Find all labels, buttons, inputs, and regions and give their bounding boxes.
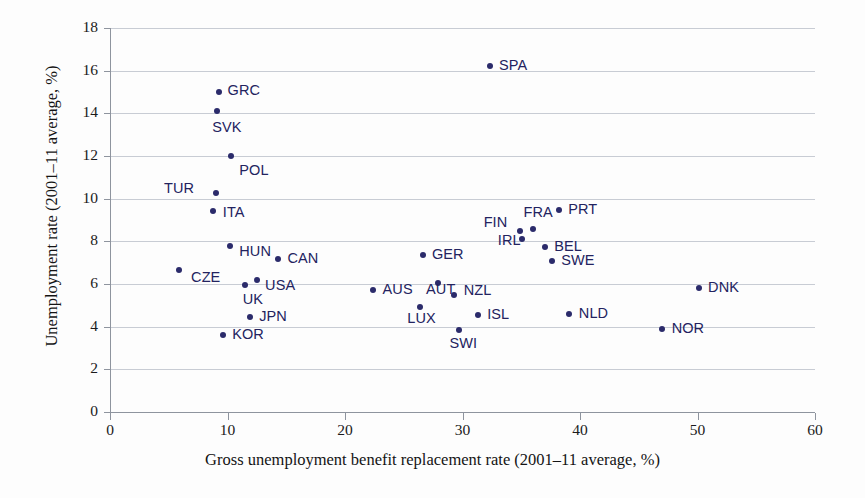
data-point-kor[interactable] <box>220 332 226 338</box>
point-label-ita: ITA <box>223 204 245 220</box>
y-tick-14 <box>104 113 111 114</box>
data-point-nld[interactable] <box>566 311 572 317</box>
data-point-nor[interactable] <box>659 326 665 332</box>
y-axis-line <box>110 28 111 413</box>
point-label-swe: SWE <box>561 252 594 268</box>
point-label-prt: PRT <box>568 201 597 217</box>
point-label-aus: AUS <box>383 281 413 297</box>
data-point-aus[interactable] <box>370 287 376 293</box>
data-point-can[interactable] <box>275 256 281 262</box>
y-tick-2 <box>104 369 111 370</box>
x-tick-50 <box>698 413 699 420</box>
x-tick-label-30: 30 <box>438 421 488 439</box>
gridline-y-2 <box>110 369 815 370</box>
y-tick-label-18: 18 <box>58 18 98 36</box>
point-label-grc: GRC <box>228 82 261 98</box>
point-label-spa: SPA <box>499 57 527 73</box>
gridline-y-18 <box>110 28 815 29</box>
point-label-nld: NLD <box>579 305 608 321</box>
point-label-kor: KOR <box>232 326 264 342</box>
y-tick-18 <box>104 28 111 29</box>
y-tick-label-4: 4 <box>58 317 98 335</box>
y-tick-8 <box>104 241 111 242</box>
data-point-isl[interactable] <box>475 312 481 318</box>
gridline-y-4 <box>110 327 815 328</box>
point-label-ger: GER <box>432 246 464 262</box>
gridline-y-12 <box>110 156 815 157</box>
x-tick-label-10: 10 <box>203 421 253 439</box>
y-tick-10 <box>104 199 111 200</box>
y-tick-12 <box>104 156 111 157</box>
point-label-can: CAN <box>287 250 318 266</box>
y-tick-4 <box>104 327 111 328</box>
x-tick-label-40: 40 <box>555 421 605 439</box>
point-label-nzl: NZL <box>464 282 492 298</box>
point-label-tur: TUR <box>164 180 194 196</box>
data-point-spa[interactable] <box>487 63 493 69</box>
y-tick-label-0: 0 <box>58 402 98 420</box>
x-axis-title: Gross unemployment benefit replacement r… <box>0 450 865 470</box>
point-label-isl: ISL <box>487 306 509 322</box>
point-label-lux: LUX <box>407 310 436 326</box>
y-tick-label-8: 8 <box>58 231 98 249</box>
point-label-jpn: JPN <box>259 308 287 324</box>
data-point-bel[interactable] <box>542 244 548 250</box>
data-point-prt[interactable] <box>556 207 562 213</box>
point-label-irl: IRL <box>498 232 521 248</box>
y-tick-label-10: 10 <box>58 189 98 207</box>
x-tick-label-0: 0 <box>85 421 135 439</box>
data-point-ger[interactable] <box>420 252 426 258</box>
data-point-swe[interactable] <box>549 258 555 264</box>
y-tick-label-16: 16 <box>58 61 98 79</box>
data-point-dnk[interactable] <box>696 285 702 291</box>
data-point-fra[interactable] <box>530 226 536 232</box>
y-tick-16 <box>104 71 111 72</box>
data-point-usa[interactable] <box>254 277 260 283</box>
y-tick-label-2: 2 <box>58 359 98 377</box>
y-tick-label-12: 12 <box>58 146 98 164</box>
point-label-uk: UK <box>243 291 263 307</box>
data-point-tur[interactable] <box>213 190 219 196</box>
y-tick-6 <box>104 284 111 285</box>
point-label-fin: FIN <box>484 214 508 230</box>
y-tick-label-6: 6 <box>58 274 98 292</box>
point-label-swi: SWI <box>450 335 478 351</box>
data-point-jpn[interactable] <box>247 314 253 320</box>
plot-area: GRCSVKPOLTURITAHUNCZECANUSAUKJPNKORSPAPR… <box>110 28 815 412</box>
x-tick-30 <box>463 413 464 420</box>
point-label-dnk: DNK <box>708 279 739 295</box>
x-tick-40 <box>580 413 581 420</box>
point-label-pol: POL <box>239 162 268 178</box>
point-label-usa: USA <box>265 277 295 293</box>
data-point-uk[interactable] <box>242 282 248 288</box>
x-tick-60 <box>815 413 816 420</box>
gridline-y-10 <box>110 199 815 200</box>
x-tick-0 <box>110 413 111 420</box>
x-tick-10 <box>228 413 229 420</box>
data-point-ita[interactable] <box>210 208 216 214</box>
x-tick-20 <box>345 413 346 420</box>
chart-page: GRCSVKPOLTURITAHUNCZECANUSAUKJPNKORSPAPR… <box>0 0 865 498</box>
data-point-swi[interactable] <box>456 327 462 333</box>
x-tick-label-60: 60 <box>790 421 840 439</box>
x-tick-label-20: 20 <box>320 421 370 439</box>
gridline-y-16 <box>110 71 815 72</box>
data-point-hun[interactable] <box>227 243 233 249</box>
data-point-cze[interactable] <box>176 267 182 273</box>
point-label-cze: CZE <box>191 269 220 285</box>
point-label-fra: FRA <box>524 204 553 220</box>
y-tick-label-14: 14 <box>58 103 98 121</box>
point-label-hun: HUN <box>239 243 271 259</box>
point-label-svk: SVK <box>212 119 241 135</box>
gridline-y-8 <box>110 241 815 242</box>
data-point-grc[interactable] <box>216 89 222 95</box>
point-label-nor: NOR <box>672 320 705 336</box>
data-point-pol[interactable] <box>228 153 234 159</box>
data-point-nzl[interactable] <box>451 292 457 298</box>
x-tick-label-50: 50 <box>673 421 723 439</box>
